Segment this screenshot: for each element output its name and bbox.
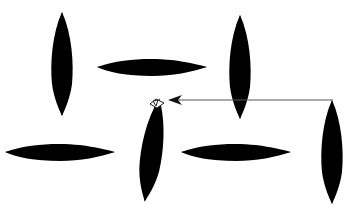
leaf-top-left-vertical xyxy=(51,12,72,116)
leaf-bottom-left-horizontal xyxy=(5,144,115,161)
leaf-far-right-vertical xyxy=(321,100,342,204)
leaf-top-center-horizontal xyxy=(97,59,207,76)
leaf-bottom-right-horizontal xyxy=(181,144,291,161)
arrow-left-icon xyxy=(168,95,333,105)
leaf-center-vertical-selected xyxy=(134,97,170,203)
cursor-icon xyxy=(150,99,164,108)
leaf-top-right-vertical xyxy=(229,15,250,119)
leaf-diagram xyxy=(0,0,352,210)
diagram-canvas xyxy=(0,0,352,210)
